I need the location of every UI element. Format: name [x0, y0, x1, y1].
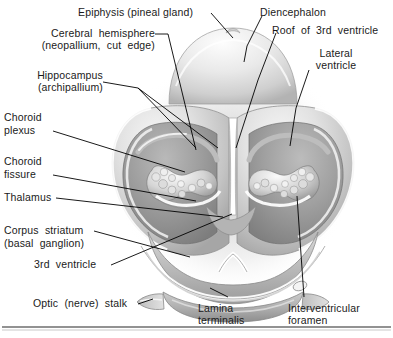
label-choroid-plexus-line2: plexus	[4, 125, 35, 137]
label-corpus-striatum-line2: (basal ganglion)	[4, 238, 84, 250]
label-choroid-plexus-line1: Choroid	[4, 112, 42, 124]
label-choroid-fissure-line1: Choroid	[4, 156, 42, 168]
label-interventricular-foramen-line2: foramen	[288, 315, 328, 327]
label-optic-stalk: Optic (nerve) stalk	[33, 298, 127, 310]
label-diencephalon: Diencephalon	[260, 7, 326, 19]
label-lamina-terminalis-line2: terminalis	[198, 315, 244, 327]
label-lamina-terminalis-line1: Lamina	[198, 303, 233, 315]
label-third-ventricle: 3rd ventricle	[34, 259, 96, 271]
label-thalamus: Thalamus	[4, 192, 51, 204]
label-cerebral-hemisphere-line2: (neopallium, cut edge)	[0, 40, 155, 52]
label-lateral-ventricle-line1: Lateral	[300, 48, 372, 60]
label-choroid-fissure-line2: fissure	[4, 169, 36, 181]
label-cerebral-hemisphere-line1: Cerebral hemisphere	[0, 28, 155, 40]
label-corpus-striatum-line1: Corpus striatum	[4, 225, 83, 237]
label-lateral-ventricle-line2: ventricle	[300, 60, 372, 72]
label-hippocampus-line2: (archipallium)	[0, 82, 103, 94]
optic-stalk	[137, 294, 164, 310]
label-roof-third-ventricle: Roof of 3rd ventricle	[272, 25, 378, 37]
label-hippocampus-line1: Hippocampus	[0, 70, 103, 82]
label-epiphysis: Epiphysis (pineal gland)	[78, 7, 193, 19]
anatomy-figure: Epiphysis (pineal gland) Cerebral hemisp…	[0, 0, 393, 338]
label-interventricular-foramen-line1: Interventricular	[288, 303, 360, 315]
